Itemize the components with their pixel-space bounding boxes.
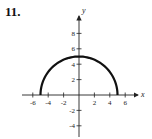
x-tick-label: -6 [30,99,36,107]
y-tick-label: 4 [72,61,76,69]
y-tick-label: 6 [72,45,76,53]
x-tick-label: 6 [123,99,127,107]
x-tick-label: -4 [45,99,51,107]
x-tick-label: 2 [93,99,97,107]
graph: -6-4-2246 8642-2-4 x y [0,0,152,139]
x-tick-label: -2 [61,99,67,107]
x-axis-label: x [140,90,145,99]
y-tick-label: -4 [69,122,75,130]
y-tick-label: -2 [69,107,75,115]
y-tick-label: 2 [72,76,76,84]
y-tick-label: 8 [72,30,76,38]
x-tick-label: 4 [108,99,112,107]
y-axis-label: y [81,6,86,15]
y-tick-labels: 8642-2-4 [69,30,75,130]
